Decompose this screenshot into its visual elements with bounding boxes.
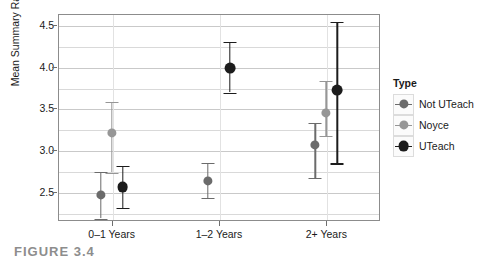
legend-items: Not UTeachNoyceUTeach <box>393 94 485 157</box>
error-bar-cap-lower <box>94 219 107 220</box>
y-tick-mark <box>52 192 57 193</box>
error-bar-cap-lower <box>116 208 129 209</box>
error-bar <box>111 102 112 173</box>
gridline-horizontal <box>59 214 379 215</box>
x-tick-label: 2+ Years <box>306 228 347 240</box>
gridline-horizontal <box>59 68 379 69</box>
error-bar-cap-lower <box>224 93 237 94</box>
y-tick-mark <box>52 150 57 151</box>
x-tick-mark <box>326 221 327 226</box>
legend-item-label: UTeach <box>419 141 455 152</box>
data-point[interactable] <box>117 181 128 192</box>
error-bar-cap-upper <box>116 166 129 167</box>
legend-key-swatch <box>393 136 414 157</box>
figure-container: Mean Summary Ratings 2.53.03.54.04.5 0–1… <box>0 0 488 256</box>
gridline-horizontal <box>59 193 379 194</box>
x-tick-mark <box>219 221 220 226</box>
legend-item-noyce[interactable]: Noyce <box>393 115 485 136</box>
gridline-horizontal <box>59 109 379 110</box>
y-tick-mark <box>52 108 57 109</box>
legend-item-label: Noyce <box>419 120 449 131</box>
error-bar-cap-upper <box>309 123 322 124</box>
data-point[interactable] <box>332 85 343 96</box>
gridline-vertical <box>113 15 114 220</box>
y-tick-mark <box>52 25 57 26</box>
y-tick-label: 4.0 <box>20 61 54 72</box>
x-tick-label: 0–1 Years <box>88 228 135 240</box>
gridline-vertical <box>220 15 221 220</box>
legend-item-not-uteach[interactable]: Not UTeach <box>393 94 485 115</box>
data-point[interactable] <box>225 63 236 74</box>
y-tick-mark <box>52 67 57 68</box>
legend-key-swatch <box>393 94 414 115</box>
gridline-horizontal <box>59 47 379 48</box>
gridline-vertical <box>327 15 328 220</box>
error-bar <box>315 123 316 178</box>
y-tick-label: 4.5 <box>20 20 54 31</box>
error-bar-cap-lower <box>309 178 322 179</box>
plot-panel <box>58 14 380 221</box>
figure-caption: FIGURE 3.4 <box>14 244 95 256</box>
gridline-horizontal <box>59 26 379 27</box>
error-bar-cap-lower <box>202 198 215 199</box>
y-tick-label: 2.5 <box>20 187 54 198</box>
error-bar-cap-upper <box>202 163 215 164</box>
x-tick-mark <box>112 221 113 226</box>
y-tick-label: 3.5 <box>20 103 54 114</box>
y-axis-tick-labels: 2.53.03.54.04.5 <box>18 0 54 256</box>
legend-title: Type <box>393 78 485 89</box>
x-tick-label: 1–2 Years <box>196 228 243 240</box>
error-bar-cap-lower <box>331 163 344 164</box>
error-bar-cap-upper <box>320 81 333 82</box>
error-bar-cap-lower <box>320 136 333 137</box>
legend-key-swatch <box>393 115 414 136</box>
legend-item-uteach[interactable]: UTeach <box>393 136 485 157</box>
legend-item-label: Not UTeach <box>419 99 474 110</box>
error-bar-cap-upper <box>331 22 344 23</box>
y-tick-label: 3.0 <box>20 145 54 156</box>
gridline-horizontal <box>59 151 379 152</box>
error-bar-cap-upper <box>224 42 237 43</box>
error-bar-cap-upper <box>105 102 118 103</box>
legend: Type Not UTeachNoyceUTeach <box>393 78 485 157</box>
error-bar-cap-lower <box>105 173 118 174</box>
